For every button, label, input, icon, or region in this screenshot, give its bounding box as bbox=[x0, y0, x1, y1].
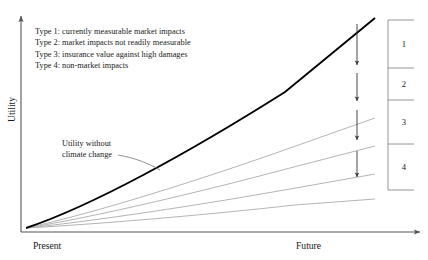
curve-after-type-1 bbox=[26, 118, 375, 228]
y-axis-label: Utility bbox=[6, 87, 17, 133]
annotation-leader-line bbox=[118, 155, 160, 170]
annotation-utility-without-climate-change: Utility without climate change bbox=[62, 139, 112, 160]
legend: Type 1: currently measurable market impa… bbox=[35, 26, 191, 72]
curve-after-type-4 bbox=[26, 199, 375, 228]
x-tick-label-present: Present bbox=[33, 240, 61, 251]
x-tick-label-future: Future bbox=[296, 240, 321, 251]
impact-curves bbox=[26, 118, 375, 228]
curve-after-type-3 bbox=[26, 174, 375, 228]
legend-entry-type-1: Type 1: currently measurable market impa… bbox=[35, 26, 191, 37]
bracket-label-1: 1 bbox=[398, 39, 410, 49]
utility-climate-change-figure: Type 1: currently measurable market impa… bbox=[0, 0, 428, 260]
legend-entry-type-4: Type 4: non-market impacts bbox=[35, 60, 191, 71]
bracket-label-2: 2 bbox=[398, 79, 410, 89]
legend-entry-type-3: Type 3: insurance value against high dam… bbox=[35, 49, 191, 60]
annotation-line-2: climate change bbox=[62, 150, 112, 161]
annotation-line-1: Utility without bbox=[62, 139, 112, 150]
bracket-label-3: 3 bbox=[398, 117, 410, 127]
legend-entry-type-2: Type 2: market impacts not readily measu… bbox=[35, 37, 191, 48]
bracket-label-4: 4 bbox=[398, 162, 410, 172]
